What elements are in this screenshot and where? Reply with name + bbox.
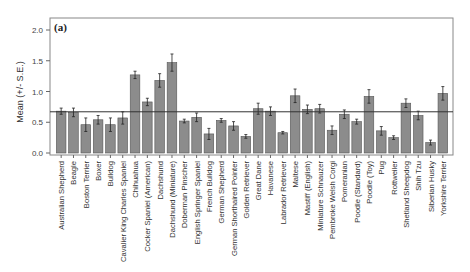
x-tick-label: Dachshund (Miniature) [168, 161, 177, 238]
bar [303, 109, 313, 153]
x-tick-label: Shetland Sheepdog [402, 161, 411, 228]
y-axis: 0.00.51.01.52.0 [32, 26, 50, 158]
bar [413, 115, 423, 153]
bar [167, 63, 177, 153]
y-tick-label: 0.0 [32, 149, 44, 158]
x-tick-label: Golden Retriever [242, 161, 251, 219]
x-tick-label: Cocker Spaniel (American) [143, 161, 152, 252]
panel-label: (a) [54, 21, 67, 34]
bar [290, 96, 300, 153]
bar [340, 114, 350, 153]
x-tick-label: Shih Tzu [414, 161, 423, 191]
x-tick-label: Pembroke Welsh Corgi [328, 161, 337, 239]
bar [438, 93, 448, 153]
x-axis-labels: Australian ShepherdBeagleBoston TerrierB… [57, 155, 448, 262]
x-tick-label: French Bulldog [205, 161, 214, 212]
bar [278, 133, 288, 153]
x-tick-label: German Shepherd [217, 161, 226, 223]
bars [56, 54, 447, 153]
bar [56, 111, 66, 153]
x-tick-label: Maltese [291, 161, 300, 188]
x-tick-label: Pomeranian [340, 161, 349, 202]
y-tick-label: 2.0 [32, 26, 44, 35]
bar [352, 122, 362, 153]
y-tick-label: 0.5 [32, 118, 44, 127]
x-tick-label: Pug [377, 161, 386, 175]
x-tick-label: Siberian Husky [427, 161, 436, 212]
bar-chart: 0.00.51.01.52.0 Mean (+/- S.E.) (a) Aust… [0, 0, 470, 272]
y-axis-label: Mean (+/- S.E.) [15, 61, 25, 122]
bar [93, 120, 103, 153]
bar [155, 80, 165, 153]
bar [241, 136, 251, 153]
bar [253, 109, 263, 153]
bar [266, 111, 276, 153]
x-tick-label: English Springer Spaniel [193, 161, 202, 244]
x-tick-label: Yorkshire Terrier [439, 161, 448, 216]
bar [192, 117, 202, 153]
x-tick-label: Havanese [266, 161, 275, 195]
x-tick-label: German Shorthaired Pointer [230, 161, 239, 256]
x-tick-label: Boston Terrier [82, 161, 91, 209]
x-tick-label: Poodle (Standard) [353, 161, 362, 223]
bar [216, 120, 226, 153]
bar [179, 121, 189, 153]
bar [143, 102, 153, 153]
x-tick-label: Great Dane [254, 161, 263, 200]
x-tick-label: Miniature Schnauzer [316, 161, 325, 231]
x-tick-label: Chihuahua [131, 160, 140, 198]
bar [364, 96, 374, 153]
x-tick-label: Australian Shepherd [57, 161, 66, 230]
x-tick-label: Labrador Retriever [279, 161, 288, 225]
x-tick-label: Doberman Pinscher [180, 161, 189, 229]
x-tick-label: Poodle (Toy) [365, 161, 374, 204]
x-tick-label: Bulldog [106, 161, 115, 186]
bar [315, 109, 325, 153]
x-tick-label: Cavalier King Charles Spaniel [119, 161, 128, 262]
x-tick-label: Boxer [94, 161, 103, 181]
y-tick-label: 1.0 [32, 88, 44, 97]
bar [130, 75, 140, 153]
x-tick-label: Beagle [69, 161, 78, 185]
x-tick-label: Dachshund [156, 161, 165, 199]
x-tick-label: Mastiff (English) [303, 161, 312, 216]
bar [401, 103, 411, 153]
x-tick-label: Rottweiler [390, 161, 399, 195]
bar [389, 138, 399, 153]
bar [69, 112, 79, 153]
y-tick-label: 1.5 [32, 57, 44, 66]
